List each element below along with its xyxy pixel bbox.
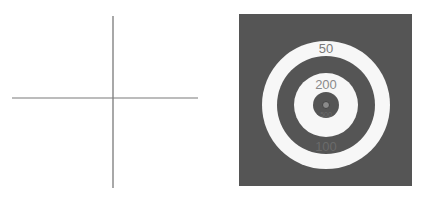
bullseye-target-icon: 50 200 100 500 — [239, 14, 412, 186]
crosshair-diagram — [0, 0, 220, 198]
target-label-third: 100 — [315, 139, 337, 154]
target-center-dot — [323, 102, 330, 109]
target-label-inner: 500 — [320, 111, 332, 118]
target-label-second: 200 — [315, 77, 337, 92]
crosshair-icon — [0, 0, 220, 198]
target-diagram: 50 200 100 500 — [239, 14, 412, 186]
target-label-outer: 50 — [319, 41, 333, 56]
